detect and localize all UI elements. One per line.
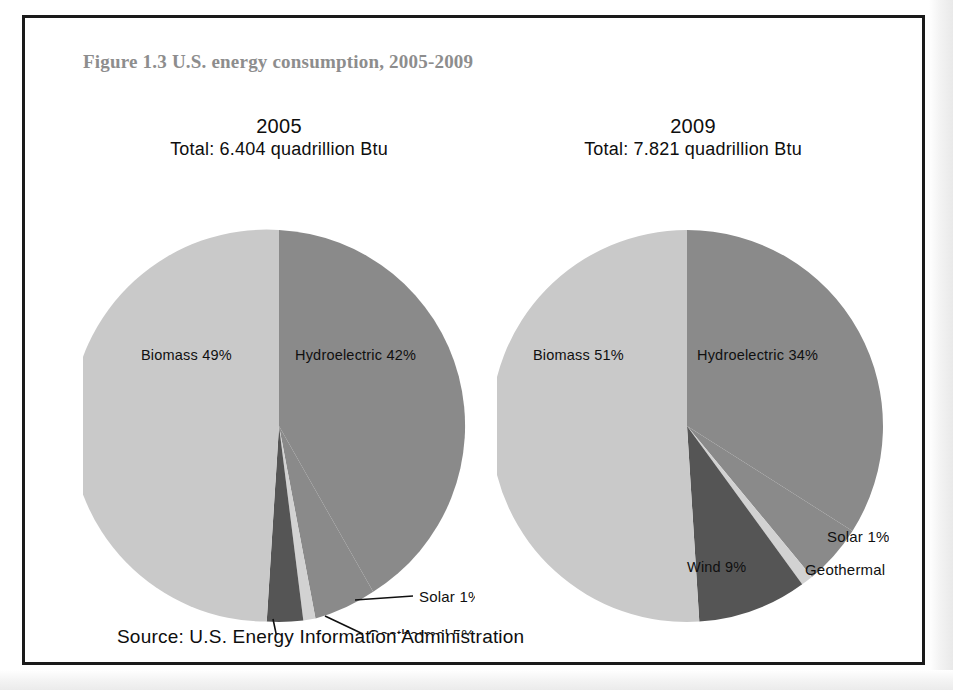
pie-label-solar-2009: Solar 1%: [827, 528, 889, 545]
source-line: Source: U.S. Energy Information Administ…: [117, 626, 524, 648]
page-edge-shading-bottom: [0, 670, 953, 690]
pie-label-biomass-2009: Biomass 51%: [533, 347, 624, 363]
pie-label-hydroelectric-2009: Hydroelectric 34%: [697, 347, 818, 363]
figure-frame: Figure 1.3 U.S. energy consumption, 2005…: [22, 15, 925, 665]
pie-panel-2005: 2005 Total: 6.404 quadrillion Btu: [83, 114, 475, 634]
figure-title: Figure 1.3 U.S. energy consumption, 2005…: [83, 51, 473, 73]
pie-label-hydroelectric-2005: Hydroelectric 42%: [295, 347, 416, 363]
figure-page: Figure 1.3 U.S. energy consumption, 2005…: [0, 0, 953, 690]
pie-label-solar-2005: Solar 1%: [419, 588, 475, 605]
panel-total-2005: Total: 6.404 quadrillion Btu: [83, 138, 475, 160]
panel-total-2009: Total: 7.821 quadrillion Btu: [497, 138, 889, 160]
page-edge-shading-right: [929, 0, 953, 690]
pie-panel-2009: 2009 Total: 7.821 quadrillion Btu: [497, 114, 889, 634]
panel-year-2009: 2009: [497, 114, 889, 138]
pie-chart-2005: Biomass 49% Hydroelectric 42% Solar 1% G…: [83, 164, 475, 634]
panel-year-2005: 2005: [83, 114, 475, 138]
pie-slice-biomass-2005[interactable]: [83, 230, 279, 622]
pie-label-geothermal-2009: Geothermal 5%: [805, 561, 889, 578]
pie-label-biomass-2005: Biomass 49%: [141, 347, 232, 363]
pie-label-wind-2009: Wind 9%: [687, 559, 746, 575]
pie-slice-biomass-2009[interactable]: [497, 230, 699, 622]
pie-chart-2009: Biomass 51% Hydroelectric 34% Wind 9% So…: [497, 164, 889, 634]
